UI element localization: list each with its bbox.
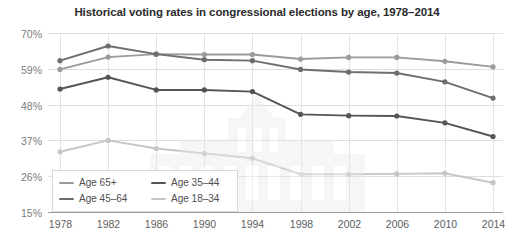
series-line [60, 54, 493, 69]
series-line [60, 77, 493, 136]
data-point [442, 59, 447, 64]
data-point [346, 69, 351, 74]
data-point [298, 56, 303, 61]
legend-row: Age 65+ Age 35–44 [59, 175, 232, 191]
data-point [250, 156, 255, 161]
data-point [442, 79, 447, 84]
y-axis-tick-label: 26% [21, 171, 42, 183]
y-axis-tick-label: 15% [21, 207, 42, 219]
x-axis-tick-label: 2006 [386, 218, 410, 230]
data-point [106, 54, 111, 59]
data-point [202, 57, 207, 62]
chart-legend: Age 65+ Age 35–44 Age 45–64 Age 18–34 [52, 170, 238, 212]
data-point [57, 58, 62, 63]
data-point [490, 95, 495, 100]
legend-row: Age 45–64 Age 18–34 [59, 191, 232, 207]
data-series-group [57, 43, 495, 185]
x-axis-tick-label: 1978 [49, 218, 73, 230]
x-axis-tick-label: 1986 [145, 218, 169, 230]
legend-item-age-65-plus[interactable]: Age 65+ [59, 177, 151, 189]
data-point [442, 120, 447, 125]
series-age-65 [57, 52, 495, 72]
x-axis-tick-label: 2014 [482, 218, 506, 230]
legend-swatch [151, 198, 166, 200]
data-point [250, 89, 255, 94]
x-axis-tick-label: 2010 [434, 218, 458, 230]
legend-swatch [59, 182, 74, 184]
y-axis-tick-label: 48% [21, 100, 42, 112]
data-point [442, 171, 447, 176]
series-line [60, 46, 493, 98]
data-point [250, 58, 255, 63]
data-point [346, 113, 351, 118]
x-axis-tick-label: 1998 [290, 218, 314, 230]
data-point [106, 43, 111, 48]
data-point [154, 52, 159, 57]
data-point [154, 87, 159, 92]
y-axis-tick-label: 37% [21, 135, 42, 147]
data-point [154, 146, 159, 151]
data-point [394, 171, 399, 176]
y-axis-tick-label: 59% [21, 64, 42, 76]
y-gridlines [48, 34, 503, 177]
legend-label: Age 35–44 [171, 177, 219, 189]
x-axis-tick-label: 1982 [97, 218, 121, 230]
data-point [202, 151, 207, 156]
data-point [57, 67, 62, 72]
y-axis-tick-labels: 70%59%48%37%26%15% [21, 28, 42, 219]
data-point [106, 138, 111, 143]
series-age-45-64 [57, 43, 495, 100]
data-point [490, 180, 495, 185]
legend-swatch [59, 198, 74, 200]
x-axis-tick-label: 2002 [338, 218, 362, 230]
data-point [106, 75, 111, 80]
data-point [250, 52, 255, 57]
data-point [346, 55, 351, 60]
data-point [394, 113, 399, 118]
x-axis-tick-label: 1990 [193, 218, 217, 230]
legend-label: Age 45–64 [79, 193, 127, 205]
data-point [394, 70, 399, 75]
legend-item-age-35-44[interactable]: Age 35–44 [151, 177, 219, 189]
data-point [490, 134, 495, 139]
legend-label: Age 18–34 [171, 193, 219, 205]
data-point [346, 172, 351, 177]
legend-swatch [151, 182, 166, 184]
x-axis-tick-label: 1994 [241, 218, 265, 230]
series-age-35-44 [57, 75, 495, 139]
data-point [57, 86, 62, 91]
legend-item-age-45-64[interactable]: Age 45–64 [59, 193, 151, 205]
data-point [202, 87, 207, 92]
data-point [298, 67, 303, 72]
data-point [202, 52, 207, 57]
legend-label: Age 65+ [79, 177, 117, 189]
voting-rates-line-chart: Historical voting rates in congressional… [0, 0, 514, 238]
data-point [490, 64, 495, 69]
y-axis-tick-label: 70% [21, 28, 42, 40]
data-point [298, 112, 303, 117]
legend-item-age-18-34[interactable]: Age 18–34 [151, 193, 219, 205]
x-axis-tick-labels: 1978198219861990199419982002200620102014 [49, 218, 506, 230]
data-point [57, 149, 62, 154]
data-point [298, 172, 303, 177]
data-point [394, 55, 399, 60]
